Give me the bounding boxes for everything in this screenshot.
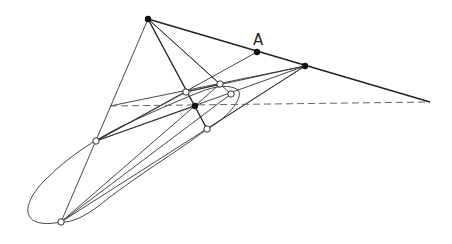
points: [58, 16, 308, 225]
construction-lines: [61, 19, 305, 222]
point-P: [145, 16, 151, 22]
open-point-O3: [228, 91, 234, 97]
ellipse-conic: [28, 86, 240, 223]
open-point-O6: [58, 219, 64, 225]
line-Q-O4: [207, 66, 305, 129]
geometry-diagram: A: [0, 0, 452, 244]
open-point-O1: [183, 89, 189, 95]
conic-curve: [28, 86, 240, 223]
dashed-line: [110, 102, 430, 106]
label-a: A: [253, 31, 264, 49]
open-point-O2: [217, 81, 223, 87]
line-C-O5: [96, 106, 195, 141]
open-point-O4: [204, 126, 210, 132]
main-lines: [148, 19, 430, 129]
point-A: [254, 49, 260, 55]
line-Q-D0: [110, 66, 305, 106]
dashed-line-D0-R: [110, 102, 430, 106]
point-Q: [302, 63, 308, 69]
point-C: [192, 103, 198, 109]
open-point-O5: [93, 138, 99, 144]
